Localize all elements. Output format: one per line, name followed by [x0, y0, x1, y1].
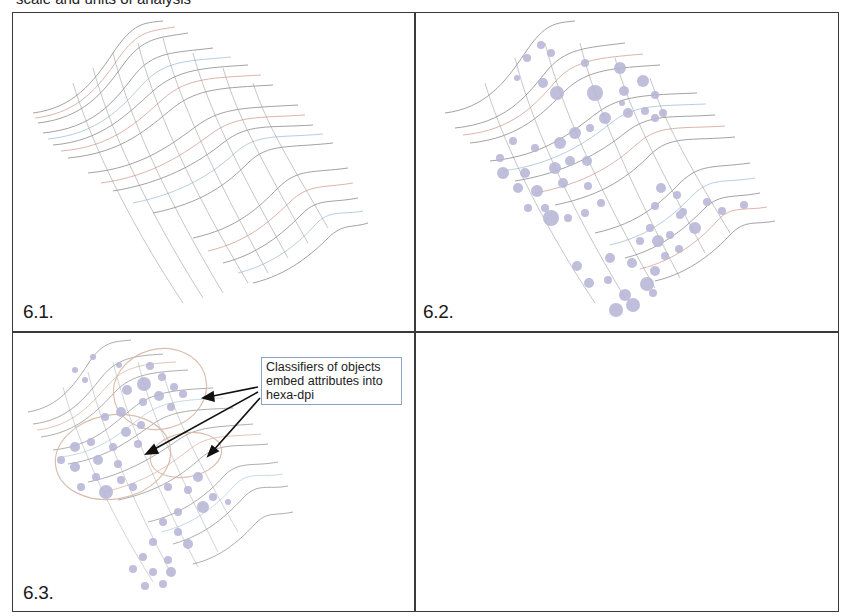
panel-label: 6.3.	[23, 582, 54, 604]
callout-line-1: Classifiers of objects	[266, 360, 397, 374]
panel-empty	[415, 332, 839, 611]
figure-caption: scale and units of analysis	[16, 0, 191, 7]
callout-line-2: embed attributes into	[266, 374, 397, 388]
callout-line-3: hexa-dpi	[266, 388, 397, 402]
panel-6-2: 6.2.	[415, 13, 839, 330]
panel-label: 6.2.	[423, 301, 454, 323]
panel-label: 6.1.	[23, 301, 54, 323]
wireframe-surface-objects-illustration	[415, 13, 839, 330]
wireframe-surface-illustration	[13, 13, 413, 330]
panel-6-1: 6.1.	[13, 13, 413, 330]
callout-box: Classifiers of objects embed attributes …	[261, 357, 402, 405]
